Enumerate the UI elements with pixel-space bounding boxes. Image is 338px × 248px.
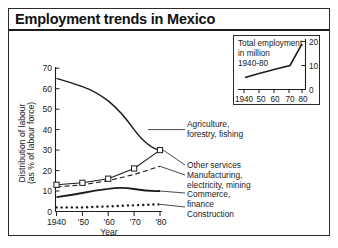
figure-title-bar: Employment trends in Mexico bbox=[9, 9, 329, 31]
y-tick-label: 0 bbox=[47, 207, 52, 217]
series-label-commerce-line1: Commerce, bbox=[187, 189, 230, 199]
y-tick-label: 60 bbox=[42, 84, 52, 94]
series-label-construction: Construction bbox=[187, 209, 234, 219]
inset-x-tick-label: 1940 bbox=[235, 95, 254, 104]
y-tick-label: 20 bbox=[42, 166, 52, 176]
y-tick-label: 10 bbox=[42, 186, 52, 196]
y-tick-label: 50 bbox=[42, 104, 52, 114]
x-axis-title: Year bbox=[100, 227, 118, 236]
page-title: Employment trends in Mexico bbox=[15, 11, 215, 27]
inset-x-tick-label: 60 bbox=[270, 95, 280, 104]
x-tick-label: '50 bbox=[78, 217, 89, 227]
x-axis-tick-labels: 1940 '50 '60 '70 '80 bbox=[47, 217, 167, 227]
leader-line-other-services bbox=[163, 150, 186, 165]
main-chart-svg: 0 10 20 30 40 50 60 70 1940 '50 '60 '7 bbox=[9, 31, 331, 236]
y-tick-label: 30 bbox=[42, 145, 52, 155]
chart-canvas: 0 10 20 30 40 50 60 70 1940 '50 '60 '7 bbox=[9, 31, 331, 236]
y-axis-title: Distribution of labour (as % of labour f… bbox=[17, 102, 36, 184]
series-label-other-services: Other services bbox=[187, 160, 241, 170]
inset-title-line3: 1940-80 bbox=[238, 59, 268, 68]
inset-x-tick-label: 50 bbox=[256, 95, 266, 104]
inset-y-tick-label: 0 bbox=[309, 86, 314, 95]
x-tick-label: 1940 bbox=[47, 217, 66, 227]
inset-chart: Total employment in million 1940-80 0 10… bbox=[234, 36, 320, 105]
y-axis-ticks bbox=[56, 68, 60, 211]
inset-y-tick-label: 20 bbox=[309, 38, 319, 47]
x-tick-label: '70 bbox=[129, 217, 140, 227]
y-tick-label: 40 bbox=[42, 125, 52, 135]
series-label-agriculture-line1: Agriculture, bbox=[187, 119, 229, 129]
series-label-agriculture-line2: forestry, fishing bbox=[187, 129, 244, 139]
series-markers-other-services bbox=[54, 148, 163, 188]
inset-x-tick-label: 80 bbox=[298, 95, 308, 104]
figure-frame: Employment trends in Mexico 0 10 20 bbox=[8, 8, 330, 236]
series-line-agriculture bbox=[57, 78, 161, 150]
series-label-commerce-line2: finance bbox=[187, 199, 214, 209]
inset-y-tick-label: 10 bbox=[309, 62, 319, 71]
inset-title-line1: Total employment bbox=[238, 39, 303, 48]
y-axis-title-line2: (as % of labour force) bbox=[26, 102, 36, 184]
leader-line-commerce bbox=[160, 191, 185, 193]
x-tick-label: '60 bbox=[104, 217, 115, 227]
series-line-construction bbox=[57, 204, 161, 207]
x-axis-ticks bbox=[57, 212, 161, 217]
y-axis-tick-labels: 0 10 20 30 40 50 60 70 bbox=[42, 63, 52, 216]
series-line-commerce bbox=[57, 188, 161, 197]
inset-x-tick-label: 70 bbox=[285, 95, 295, 104]
series-label-manufacturing-line1: Manufacturing, bbox=[187, 170, 242, 180]
leader-line-construction bbox=[160, 204, 185, 207]
x-tick-label: '80 bbox=[155, 217, 166, 227]
leader-line-manufacturing bbox=[160, 166, 185, 175]
inset-title-line2: in million bbox=[238, 49, 270, 58]
y-tick-label: 70 bbox=[42, 63, 52, 73]
